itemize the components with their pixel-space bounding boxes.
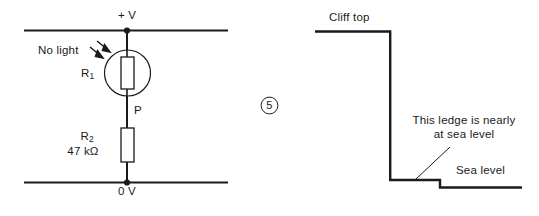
r1-label-base: R: [81, 67, 90, 79]
question-number-text: 5: [259, 99, 280, 112]
figure-canvas: + V 0 V No light R1 P R2 47 kΩ 5 Cliff t…: [0, 0, 539, 216]
ledge-note-line-2: at sea level: [404, 127, 524, 141]
r2-value-label: 47 kΩ: [52, 145, 114, 158]
r1-label-subscript: 1: [90, 71, 95, 81]
r2-label: R2: [60, 130, 114, 146]
r1-label: R1: [81, 67, 94, 83]
r2-label-base: R: [80, 130, 89, 142]
node-p-label: P: [134, 104, 142, 117]
ledge-note-line-1: This ledge is nearly: [404, 113, 524, 127]
r2-label-subscript: 2: [89, 134, 94, 144]
ldr-resistor-body: [121, 57, 134, 89]
no-light-label: No light: [38, 44, 79, 57]
zero-volt-label: 0 V: [106, 185, 148, 198]
node-dot-positive: [124, 27, 130, 33]
no-light-arrows-icon: [90, 41, 110, 58]
cliff-top-label: Cliff top: [329, 11, 370, 24]
r2-resistor-body: [121, 128, 134, 162]
sea-level-label: Sea level: [456, 164, 505, 177]
positive-supply-label: + V: [106, 9, 148, 22]
ledge-note-leader-line: [416, 147, 450, 179]
